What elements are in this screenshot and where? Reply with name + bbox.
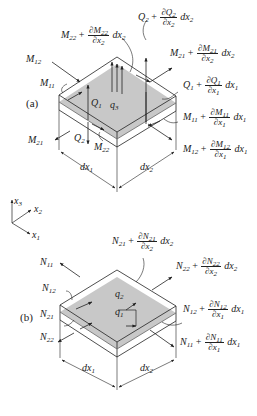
label-M12: M12 — [26, 54, 41, 64]
label-M22: M22 — [94, 142, 109, 152]
label-dx2-b: dx2 — [140, 363, 153, 373]
label-q3: q3 — [110, 100, 119, 110]
plate-element-diagram: (a) M22 + ∂M22∂x2 dx2 Q2 + ∂Q2∂x2 dx2 M2… — [0, 0, 257, 416]
label-x1: x1 — [32, 230, 40, 240]
label-dx1-b: dx1 — [82, 363, 95, 373]
label-dx2-a: dx2 — [140, 162, 153, 172]
label-N12-increment: N12 + ∂N12∂x1 dx1 — [183, 300, 244, 319]
label-q2: q2 — [115, 289, 124, 299]
label-q1: q1 — [115, 307, 124, 317]
label-N11: N11 — [40, 257, 53, 267]
label-M22-increment: M22 + ∂M22∂x2 dx2 — [61, 26, 125, 45]
label-M21-increment: M21 + ∂M21∂x2 dx2 — [170, 44, 234, 63]
label-M21: M21 — [28, 135, 43, 145]
label-Q1-increment: Q1 + ∂Q1∂x1 dx1 — [183, 76, 238, 95]
label-Q2-increment: Q2 + ∂Q2∂x2 dx2 — [138, 8, 193, 27]
panel-b-element — [58, 258, 182, 390]
label-x3: x3 — [14, 196, 22, 206]
label-x2: x2 — [34, 204, 42, 214]
label-M11: M11 — [40, 78, 55, 88]
label-Q2: Q2 — [74, 133, 85, 143]
panel-a-tag: (a) — [26, 97, 38, 109]
label-dx1-a: dx1 — [80, 162, 93, 172]
label-N22: N22 — [40, 332, 54, 342]
label-N11-increment: N11 + ∂N11∂x1 dx1 — [180, 333, 240, 352]
label-N21-increment: N21 + ∂N21∂x2 dx2 — [112, 232, 173, 251]
label-N22-increment: N22 + ∂N22∂x2 dx2 — [176, 257, 237, 276]
panel-b-tag: (b) — [20, 311, 33, 323]
label-M12-increment: M12 + ∂M12∂x1 dx1 — [183, 140, 247, 159]
label-Q1: Q1 — [91, 98, 102, 108]
label-M11-increment: M11 + ∂M11∂x1 dx1 — [183, 108, 246, 127]
label-N12: N12 — [42, 283, 56, 293]
label-N21: N21 — [40, 309, 54, 319]
